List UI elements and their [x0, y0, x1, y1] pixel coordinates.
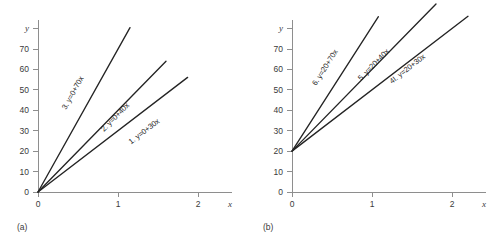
- y-tick-label-a-40: 40: [20, 105, 30, 115]
- x-tick-label-a-2: 2: [196, 199, 201, 209]
- y-tick-label-a-70: 70: [20, 44, 30, 54]
- x-axis-label-b: x: [481, 199, 486, 209]
- y-tick-label-b-20: 20: [274, 146, 284, 156]
- y-axis-label-b: y: [278, 23, 283, 33]
- y-tick-label-a-50: 50: [20, 85, 30, 95]
- series-label-a-2: 2. y=0+40x: [99, 101, 131, 134]
- y-axis-label-a: y: [24, 23, 29, 33]
- x-tick-label-b-1: 1: [370, 199, 375, 209]
- series-label-b-5: 5. y=20+40x: [356, 47, 391, 83]
- x-axis-label-a: x: [227, 199, 232, 209]
- data-line-a-1: [38, 77, 188, 192]
- y-tick-label-a-10: 10: [20, 167, 30, 177]
- series-label-b-4: 4I. y=20+30x: [388, 52, 427, 86]
- y-tick-label-b-30: 30: [274, 126, 284, 136]
- chart-panel-a: 0 10 20 30 40 50 60 70 0 1 2 y x 3. y=0+…: [0, 0, 247, 245]
- y-tick-label-b-60: 60: [274, 64, 284, 74]
- data-line-b-6: [292, 17, 378, 151]
- x-tick-label-b-0: 0: [290, 199, 295, 209]
- chart-svg-b: 0 10 20 30 40 50 60 70 0 1 2 y x 6. y=20…: [246, 0, 493, 245]
- y-tick-label-a-20: 20: [20, 146, 30, 156]
- y-tick-label-a-0: 0: [24, 187, 29, 197]
- panel-caption-b: (b): [263, 222, 273, 232]
- series-label-a-3: 3. y=0+70x: [60, 74, 86, 111]
- figure-linear-equations: 0 10 20 30 40 50 60 70 0 1 2 y x 3. y=0+…: [0, 0, 493, 245]
- y-tick-label-b-40: 40: [274, 105, 284, 115]
- panel-caption-a: (a): [17, 222, 27, 232]
- x-tick-label-b-2: 2: [450, 199, 455, 209]
- chart-svg-a: 0 10 20 30 40 50 60 70 0 1 2 y x 3. y=0+…: [0, 0, 247, 245]
- y-tick-label-b-70: 70: [274, 44, 284, 54]
- chart-panel-b: 0 10 20 30 40 50 60 70 0 1 2 y x 6. y=20…: [246, 0, 493, 245]
- series-label-b-6: 6. y=20+70x: [310, 48, 340, 87]
- y-tick-label-b-0: 0: [278, 187, 283, 197]
- x-tick-label-a-1: 1: [116, 199, 121, 209]
- y-tick-label-b-50: 50: [274, 85, 284, 95]
- y-tick-label-b-10: 10: [274, 167, 284, 177]
- y-tick-label-a-60: 60: [20, 64, 30, 74]
- y-tick-label-a-30: 30: [20, 126, 30, 136]
- x-tick-label-a-0: 0: [36, 199, 41, 209]
- series-label-a-1: 1. y=0+30x: [127, 116, 162, 146]
